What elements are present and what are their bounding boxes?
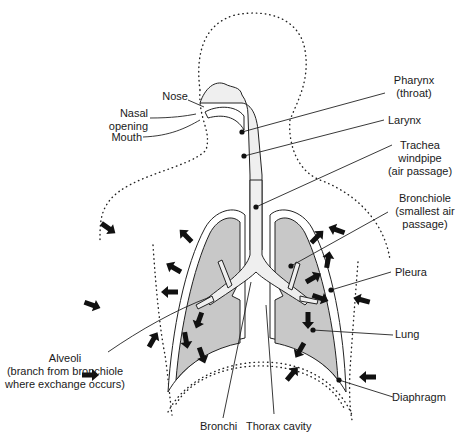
label-bronchiole: Bronchiole (smallest air passage) [388, 192, 460, 231]
arrow-icon [163, 258, 184, 277]
respiratory-diagram: Nose Nasal opening Mouth Pharynx (throat… [0, 0, 460, 441]
label-alveoli-line2: (branch from bronchiole [0, 365, 130, 378]
label-nasal-opening-line1: Nasal [100, 107, 148, 120]
label-trachea-line3: (air passage) [380, 165, 460, 178]
label-mouth: Mouth [100, 131, 142, 144]
label-bronchi: Bronchi [200, 420, 237, 433]
label-diaphragm: Diaphragm [392, 391, 446, 404]
diaphragm-outline-inner [176, 366, 344, 408]
arrow-icon [144, 329, 163, 350]
label-pharynx-line2: (throat) [386, 87, 442, 100]
leader-pleura [331, 272, 391, 290]
leader-nasal-opening [150, 114, 196, 118]
label-alveoli: Alveoli (branch from bronchiole where ex… [0, 352, 130, 391]
label-lung: Lung [395, 328, 419, 341]
label-nasal-opening: Nasal opening [100, 107, 148, 133]
label-trachea: Trachea windpipe (air passage) [380, 139, 460, 178]
torso-outline-right [350, 262, 358, 420]
leader-trachea [256, 145, 392, 207]
label-bronchiole-line1: Bronchiole [388, 192, 460, 205]
leader-mouth [143, 120, 200, 137]
label-pharynx: Pharynx (throat) [386, 74, 442, 100]
arrow-icon [359, 371, 376, 383]
label-pharynx-line1: Pharynx [386, 74, 442, 87]
label-nose: Nose [150, 90, 188, 103]
arrow-icon [326, 221, 346, 238]
label-alveoli-line1: Alveoli [0, 352, 130, 365]
label-larynx: Larynx [388, 114, 421, 127]
arrow-icon [161, 286, 178, 298]
arrow-icon [82, 297, 102, 314]
label-thorax-cavity: Thorax cavity [246, 420, 311, 433]
label-pleura: Pleura [395, 266, 427, 279]
label-bronchiole-line2: (smallest air [388, 205, 460, 218]
label-bronchiole-line3: passage) [388, 218, 460, 231]
leader-pharynx [242, 93, 385, 132]
diaphragm-outline-outer [168, 362, 352, 415]
label-trachea-line1: Trachea [380, 139, 460, 152]
arrow-icon [282, 363, 302, 384]
arrow-icon [175, 225, 196, 246]
oral-cavity [205, 107, 244, 130]
label-trachea-line2: windpipe [380, 152, 460, 165]
label-alveoli-line3: where exchange occurs) [0, 378, 130, 391]
arrow-icon [352, 292, 372, 308]
